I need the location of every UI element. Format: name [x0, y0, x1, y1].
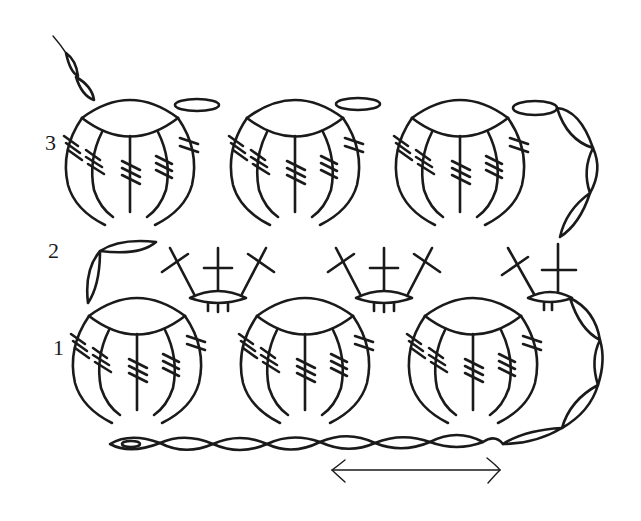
shell-stitch-icon — [394, 100, 528, 225]
cross-stitch-icon — [328, 248, 440, 312]
shell-stitch-icon — [71, 298, 205, 423]
foundation-chain — [110, 435, 503, 450]
row2-crosses — [162, 248, 440, 312]
shell-stitch-icon — [407, 298, 541, 423]
shell-stitch-icon — [239, 298, 373, 423]
row-label-3: 3 — [45, 132, 56, 154]
row-label-2: 2 — [48, 240, 59, 262]
turning-chain-right — [557, 108, 597, 237]
repeat-arrow-icon — [332, 458, 500, 483]
diagram-canvas — [0, 0, 641, 521]
shell-stitch-icon — [64, 100, 198, 225]
shell-stitch-icon — [229, 100, 363, 225]
row-label-1: 1 — [53, 337, 64, 359]
cross-stitch-icon — [162, 248, 274, 312]
turning-chain-lower-right — [503, 298, 603, 444]
row2-partial-cross — [502, 244, 576, 310]
starting-chain-icon — [53, 36, 94, 100]
turning-chain-row2 — [87, 241, 156, 303]
row3-shells — [64, 100, 528, 225]
row1-shells — [71, 298, 541, 423]
